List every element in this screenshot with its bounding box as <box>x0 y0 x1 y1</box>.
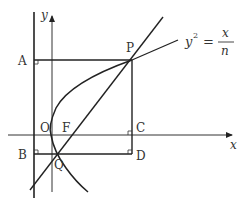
label-o: O <box>40 121 50 135</box>
label-b: B <box>18 148 27 162</box>
label-q: Q <box>54 158 64 172</box>
equation-denominator: n <box>221 44 229 58</box>
equation-lhs: y <box>184 34 193 49</box>
label-p: P <box>126 41 134 55</box>
equation-leader-line <box>132 40 178 60</box>
label-d: D <box>136 149 146 163</box>
equation-exponent: 2 <box>193 31 198 40</box>
y-axis-label: y <box>40 8 48 22</box>
label-f: F <box>62 121 70 135</box>
equation-equals: = <box>203 34 214 49</box>
parabola-equation: y 2 = x n <box>184 26 234 58</box>
equation-numerator: x <box>222 26 229 40</box>
focal-chord-line <box>30 17 163 190</box>
x-axis-label: x <box>230 138 237 152</box>
label-c: C <box>136 121 145 135</box>
parabola-diagram: y x A P O F C B Q D y 2 = x n <box>0 0 244 199</box>
label-a: A <box>17 54 27 68</box>
